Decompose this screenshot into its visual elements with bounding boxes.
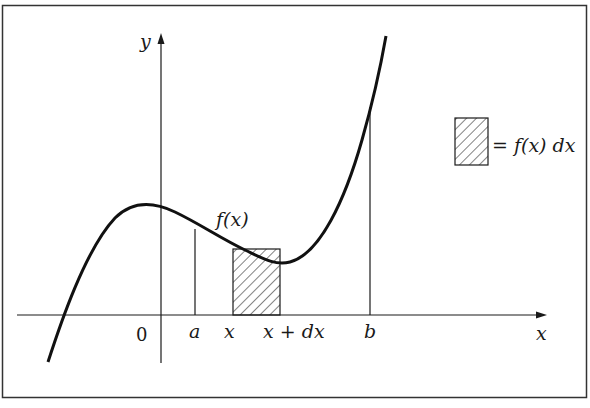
- tick-label-a: a: [189, 320, 200, 342]
- origin-label: 0: [136, 324, 147, 345]
- tick-label-b: b: [364, 320, 376, 342]
- y-axis-label: y: [139, 30, 151, 52]
- strip-rectangle: [233, 249, 280, 315]
- tick-label-x-plus-dx: x + dx: [263, 320, 325, 342]
- legend-hatch-swatch: [455, 118, 488, 165]
- legend-text: = f(x) dx: [492, 134, 576, 156]
- x-axis-label: x: [536, 322, 547, 344]
- integral-diagram: y x 0 a x x + dx b f(x) = f(x) dx: [0, 0, 590, 408]
- curve-label: f(x): [214, 208, 249, 230]
- tick-label-x: x: [224, 320, 235, 342]
